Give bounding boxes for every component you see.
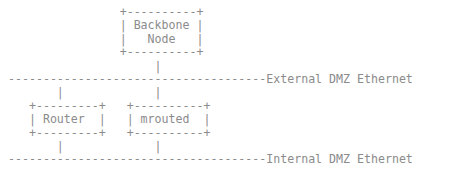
art-row-backbone-label-1: | Backbone | xyxy=(8,19,413,32)
ascii-network-diagram: +----------+ | Backbone | | Node | +----… xyxy=(0,0,456,170)
art-row-backbone-top: +----------+ xyxy=(8,6,413,19)
art-row-boxes-bottom: +---------+ +----------+ xyxy=(8,127,413,140)
art-row-upper-connectors: | | xyxy=(8,86,413,99)
art-row-internal-dmz-bus: -------------------------------------Int… xyxy=(8,153,413,166)
art-row-backbone-bottom: +----------+ xyxy=(8,46,413,59)
art-row-boxes-labels: | Router | | mrouted | xyxy=(8,113,413,126)
art-row-backbone-label-2: | Node | xyxy=(8,33,413,46)
ascii-art-block: +----------+ | Backbone | | Node | +----… xyxy=(8,6,413,167)
art-row-external-dmz-bus: -------------------------------------Ext… xyxy=(8,73,413,86)
art-row-backbone-connector: | xyxy=(8,60,413,73)
art-row-boxes-top: +---------+ +----------+ xyxy=(8,100,413,113)
art-row-lower-connectors: | | xyxy=(8,140,413,153)
